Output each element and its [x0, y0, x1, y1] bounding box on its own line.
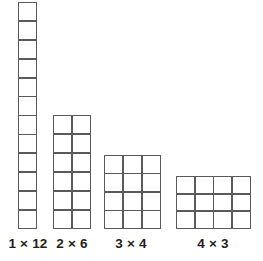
- unit-square-grid: [53, 115, 91, 229]
- unit-square: [196, 195, 213, 211]
- unit-square: [19, 22, 36, 39]
- unit-square: [73, 135, 90, 152]
- unit-square: [143, 174, 160, 191]
- unit-square: [54, 173, 71, 190]
- unit-square: [196, 177, 213, 193]
- unit-square: [54, 192, 71, 209]
- unit-square: [73, 116, 90, 133]
- unit-square: [233, 212, 250, 228]
- unit-square: [105, 193, 122, 210]
- unit-square: [73, 192, 90, 209]
- unit-square: [105, 156, 122, 173]
- factor-array-figure: 1 × 122 × 63 × 44 × 3: [0, 0, 263, 261]
- unit-square: [19, 60, 36, 77]
- unit-square: [105, 211, 122, 228]
- unit-square-grid: [104, 155, 161, 229]
- unit-square: [54, 116, 71, 133]
- unit-square: [19, 79, 36, 96]
- unit-square: [73, 154, 90, 171]
- unit-square: [19, 192, 36, 209]
- unit-square: [54, 154, 71, 171]
- unit-square: [19, 116, 36, 133]
- array-label: 2 × 6: [46, 236, 98, 251]
- unit-square: [19, 154, 36, 171]
- unit-square: [233, 195, 250, 211]
- unit-square: [233, 177, 250, 193]
- unit-square: [73, 211, 90, 228]
- unit-square: [124, 174, 141, 191]
- unit-square: [177, 195, 194, 211]
- unit-square-grid: [176, 176, 251, 229]
- unit-square: [177, 212, 194, 228]
- array-label: 4 × 3: [187, 236, 239, 251]
- unit-square: [54, 135, 71, 152]
- unit-square: [177, 177, 194, 193]
- unit-square: [124, 211, 141, 228]
- unit-square-grid: [18, 2, 37, 229]
- unit-square: [19, 135, 36, 152]
- unit-square: [19, 173, 36, 190]
- unit-square: [54, 211, 71, 228]
- unit-square: [196, 212, 213, 228]
- unit-square: [19, 3, 36, 20]
- unit-square: [19, 211, 36, 228]
- unit-square: [19, 41, 36, 58]
- unit-square: [214, 195, 231, 211]
- unit-square: [214, 177, 231, 193]
- array-label: 3 × 4: [105, 236, 157, 251]
- unit-square: [143, 211, 160, 228]
- unit-square: [73, 173, 90, 190]
- unit-square: [124, 156, 141, 173]
- unit-square: [19, 97, 36, 114]
- unit-square: [143, 193, 160, 210]
- unit-square: [124, 193, 141, 210]
- unit-square: [105, 174, 122, 191]
- unit-square: [143, 156, 160, 173]
- unit-square: [214, 212, 231, 228]
